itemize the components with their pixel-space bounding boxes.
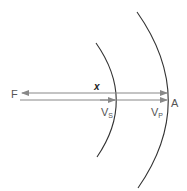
s-wave-label: VS bbox=[101, 106, 113, 119]
station-label: A bbox=[171, 97, 179, 109]
p-wave-label-sub: P bbox=[158, 112, 163, 119]
focus-label: F bbox=[11, 88, 18, 100]
p-wave-label: VP bbox=[151, 106, 163, 119]
distance-label: x bbox=[93, 81, 100, 92]
wavefront-diagram: F x VS VP A bbox=[0, 0, 187, 191]
s-wave-label-sub: S bbox=[108, 112, 113, 119]
